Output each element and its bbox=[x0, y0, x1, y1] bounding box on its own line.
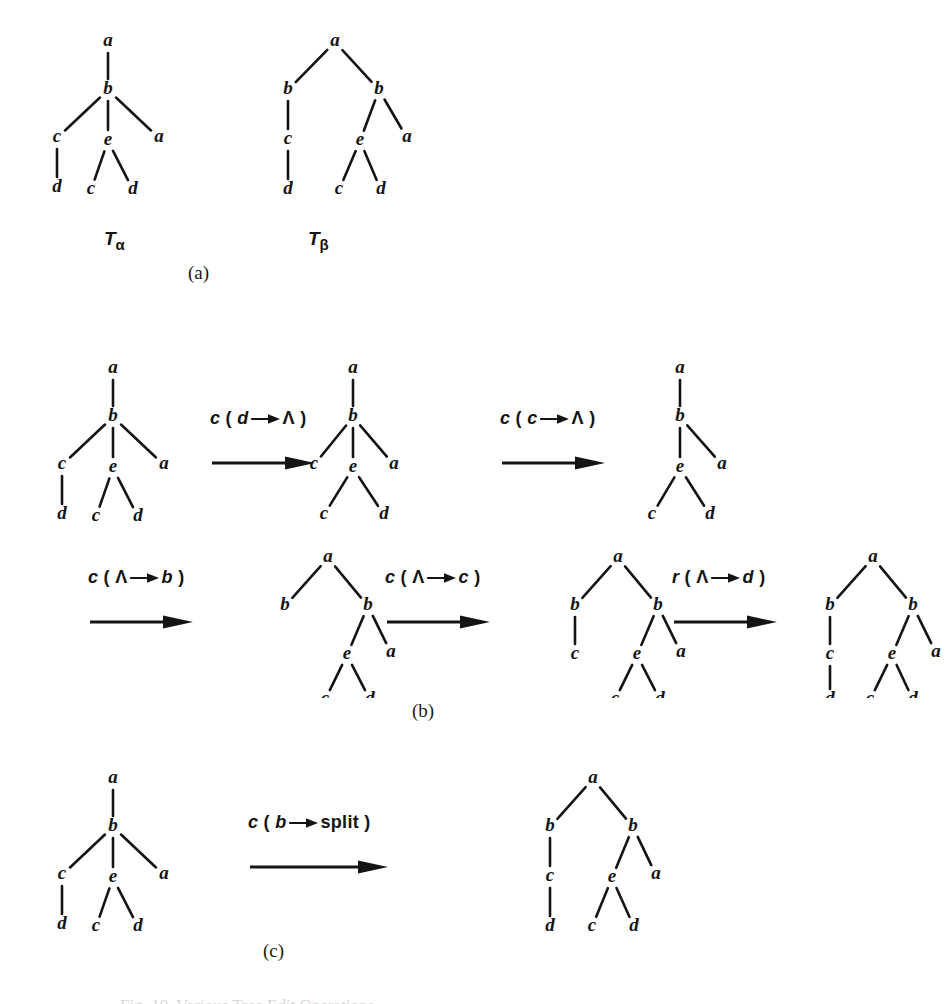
tree-node-label: d bbox=[365, 687, 375, 698]
tree-node-label: d bbox=[133, 914, 143, 935]
tree-name-main: T bbox=[104, 228, 116, 249]
tree-node-label: a bbox=[108, 356, 118, 377]
tree-node-label: c bbox=[588, 914, 597, 935]
tree-node-label: b bbox=[108, 404, 118, 425]
edit-operation-token: ) bbox=[359, 812, 371, 832]
tree-edge bbox=[596, 888, 608, 917]
rightwards-arrow-icon bbox=[130, 571, 160, 585]
edit-operation-token: ) bbox=[295, 408, 307, 428]
edit-operation-token: Λ bbox=[696, 567, 708, 587]
tree-edge bbox=[641, 616, 653, 645]
tree-node-label: b bbox=[283, 77, 293, 98]
tree-diagram: abbeacd bbox=[255, 548, 425, 698]
tree-edge bbox=[351, 616, 363, 645]
edit-operation-label: c ( Λc ) bbox=[385, 567, 480, 588]
tree-node-label: a bbox=[402, 125, 412, 146]
tree-node-label: b bbox=[545, 814, 555, 835]
edit-operation-label: c ( bsplit ) bbox=[248, 812, 371, 833]
edit-operation-token: b bbox=[162, 567, 173, 587]
tree-edge bbox=[65, 98, 100, 131]
tree-edge bbox=[620, 665, 632, 690]
tree-node-label: d bbox=[629, 914, 639, 935]
tree-node-label: c bbox=[866, 687, 875, 698]
tree-node-label: a bbox=[154, 125, 164, 146]
tree-node-label: a bbox=[588, 766, 598, 787]
tree-name-label: Tα bbox=[104, 228, 125, 253]
tree-edge bbox=[658, 477, 675, 505]
tree-diagram: abceacd bbox=[300, 355, 470, 525]
tree-node-label: c bbox=[53, 125, 62, 146]
edit-operation-token: ) bbox=[173, 567, 185, 587]
edit-operation-label: c ( dΛ ) bbox=[210, 408, 306, 429]
tree-edge bbox=[880, 566, 906, 597]
edit-operation-token: ( bbox=[679, 567, 696, 587]
transform-arrow bbox=[88, 612, 193, 636]
edit-operation-token: ( bbox=[220, 408, 237, 428]
tree-node-label: e bbox=[109, 865, 118, 886]
tree-node-label: c bbox=[321, 687, 330, 698]
edit-operation-token: Λ bbox=[412, 567, 424, 587]
tree-name-subscript: α bbox=[116, 236, 125, 253]
tree-node-label: c bbox=[546, 864, 555, 885]
tree-node-label: a bbox=[389, 452, 399, 473]
tree-edge bbox=[296, 50, 328, 82]
tree-node-label: a bbox=[103, 29, 113, 50]
tree-node-label: d bbox=[128, 177, 138, 198]
tree-node-label: d bbox=[908, 687, 918, 698]
tree-edge bbox=[875, 665, 887, 690]
tree-edge bbox=[837, 566, 865, 598]
edit-operation-token: split bbox=[321, 812, 360, 832]
tree-edge bbox=[359, 477, 378, 506]
edit-operation: c ( dΛ ) bbox=[210, 408, 355, 478]
tree-node-label: b bbox=[570, 593, 580, 614]
tree-node-label: b bbox=[103, 77, 113, 98]
tree-edge bbox=[321, 426, 346, 457]
tree-node-label: b bbox=[280, 593, 290, 614]
tree-node-label: b bbox=[908, 593, 918, 614]
tree-edge bbox=[600, 787, 626, 818]
tree-diagram: abbceacd bbox=[545, 548, 715, 698]
edit-operation-token: ) bbox=[469, 567, 481, 587]
edit-operation: c ( cΛ ) bbox=[500, 408, 645, 478]
tree-node-label: d bbox=[283, 177, 293, 198]
edit-operation-token: c bbox=[210, 408, 220, 428]
tree-edge bbox=[342, 50, 371, 82]
tree-node-label: c bbox=[320, 502, 329, 523]
tree-node-label: b bbox=[348, 404, 358, 425]
tree-node-label: c bbox=[571, 642, 580, 663]
tree-node-label: a bbox=[675, 356, 685, 377]
tree-node-label: c bbox=[92, 914, 101, 935]
tree-node-label: c bbox=[335, 177, 344, 198]
tree-node-label: e bbox=[676, 455, 685, 476]
tree-diagram: abceadcd bbox=[30, 355, 200, 525]
tree-edge bbox=[343, 151, 355, 180]
tree-edge bbox=[118, 888, 133, 917]
edit-operation: c ( Λc ) bbox=[385, 567, 530, 637]
tree-node-label: b bbox=[108, 814, 118, 835]
tree-node-label: d bbox=[57, 912, 67, 933]
tree-node-label: c bbox=[310, 452, 319, 473]
tree-edge bbox=[897, 665, 909, 690]
tree-node-label: b bbox=[374, 77, 384, 98]
tree-node-label: a bbox=[613, 548, 623, 566]
tree-edge bbox=[352, 665, 365, 690]
tree-node-label: c bbox=[58, 452, 67, 473]
tree-node-label: d bbox=[376, 177, 386, 198]
tree-node-label: d bbox=[825, 687, 835, 698]
tree-node-label: e bbox=[104, 128, 113, 149]
tree-diagram: abbceadcd bbox=[800, 548, 945, 698]
rightwards-arrow-icon bbox=[289, 816, 319, 830]
edit-operation-token: c bbox=[500, 408, 510, 428]
edit-operation-token: c bbox=[459, 567, 469, 587]
tree-name-subscript: β bbox=[320, 236, 329, 253]
edit-operation-token: ( bbox=[395, 567, 412, 587]
tree-diagram: abceadcd bbox=[30, 765, 200, 935]
edit-operation-token: ) bbox=[754, 567, 766, 587]
tree-node-label: e bbox=[633, 642, 642, 663]
tree-node-label: a bbox=[651, 862, 661, 883]
tree-node-label: a bbox=[931, 640, 941, 661]
edit-operation-token: Λ bbox=[115, 567, 127, 587]
tree-node-label: b bbox=[825, 593, 835, 614]
